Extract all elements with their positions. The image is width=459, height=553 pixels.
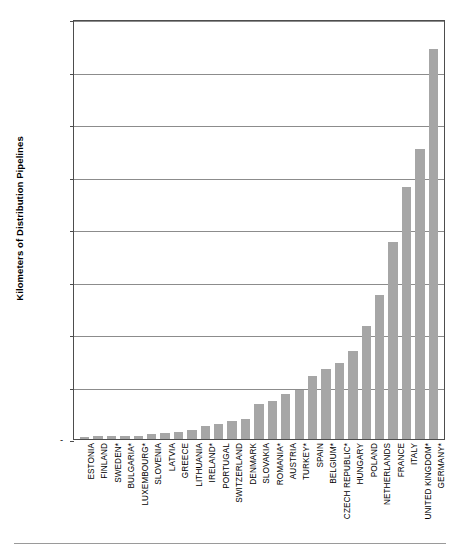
x-axis-label-slot: SLOVAKIA — [252, 441, 265, 541]
bar — [201, 426, 210, 439]
x-axis-label-slot: LUXEMBOURG* — [131, 441, 144, 541]
x-axis-label-slot: HUNGARY — [347, 441, 360, 541]
bar-slot — [239, 21, 252, 439]
bar — [348, 351, 357, 439]
bar — [295, 390, 304, 439]
bar — [375, 295, 384, 439]
x-axis-label-slot: BELGIUM* — [320, 441, 333, 541]
bar-slot — [172, 21, 185, 439]
x-axis-label-slot: ROMANIA* — [266, 441, 279, 541]
bar-slot — [78, 21, 91, 439]
bar-slot — [91, 21, 104, 439]
x-axis-label: GERMANY* — [434, 443, 443, 488]
bar-slot — [400, 21, 413, 439]
x-axis-labels-group: ESTONIAFINLANDSWEDEN*BULGARIA*LUXEMBOURG… — [73, 441, 445, 541]
bar — [134, 436, 143, 439]
bar — [335, 363, 344, 439]
bar — [429, 49, 438, 439]
bar-slot — [252, 21, 265, 439]
x-axis-label-slot: LATVIA — [158, 441, 171, 541]
bar-slot — [293, 21, 306, 439]
x-axis-label-slot: DENMARK — [239, 441, 252, 541]
y-axis-zero-label: - — [60, 434, 63, 445]
bars-group — [74, 21, 444, 439]
x-axis-label-slot: IRELAND* — [198, 441, 211, 541]
bar — [241, 419, 250, 439]
bar — [214, 424, 223, 439]
x-axis-label-slot: ITALY — [401, 441, 414, 541]
x-axis-label-slot: FRANCE — [387, 441, 400, 541]
bar — [160, 433, 169, 439]
bar — [120, 436, 129, 439]
bar — [147, 434, 156, 439]
bar — [107, 436, 116, 439]
bar-slot — [373, 21, 386, 439]
bar-slot — [185, 21, 198, 439]
bar-slot — [333, 21, 346, 439]
bar — [93, 436, 102, 439]
x-axis-label-slot: ESTONIA — [77, 441, 90, 541]
x-axis-label-slot: PORTUGAL — [212, 441, 225, 541]
bar-slot — [105, 21, 118, 439]
bar-slot — [319, 21, 332, 439]
x-axis-label-slot: SPAIN — [306, 441, 319, 541]
x-axis-label-slot: TURKEY* — [293, 441, 306, 541]
bar-slot — [212, 21, 225, 439]
bar — [281, 394, 290, 439]
bar — [388, 242, 397, 439]
x-axis-label-slot: CZECH REPUBLIC* — [333, 441, 346, 541]
bar-slot — [199, 21, 212, 439]
y-axis-title: Kilometers of Distribution Pipelines — [14, 99, 25, 339]
bar-slot — [413, 21, 426, 439]
bar-slot — [145, 21, 158, 439]
bar — [187, 430, 196, 439]
bar — [308, 376, 317, 439]
bar-slot — [158, 21, 171, 439]
x-axis-label-slot: GREECE — [171, 441, 184, 541]
bar — [321, 369, 330, 439]
bar — [254, 404, 263, 439]
bar — [402, 187, 411, 439]
bar-slot — [279, 21, 292, 439]
x-axis-label-slot: SWEDEN* — [104, 441, 117, 541]
bar-slot — [386, 21, 399, 439]
bar — [268, 401, 277, 439]
x-axis-label-slot: GERMANY* — [428, 441, 441, 541]
bar — [80, 437, 89, 439]
x-axis-label-slot: NETHERLANDS — [374, 441, 387, 541]
bar-slot — [118, 21, 131, 439]
bar — [227, 421, 236, 439]
x-axis-label-slot: AUSTRIA — [279, 441, 292, 541]
bar-slot — [132, 21, 145, 439]
bar-slot — [266, 21, 279, 439]
x-axis-label-slot: SLOVENIA — [144, 441, 157, 541]
x-axis-label-slot: POLAND — [360, 441, 373, 541]
bar — [415, 149, 424, 439]
plot-area: 50,000100,000150,000200,000250,000300,00… — [73, 20, 445, 440]
bar-slot — [306, 21, 319, 439]
pipeline-bar-chart: Kilometers of Distribution Pipelines - 5… — [0, 0, 459, 553]
x-axis-label-slot: UNITED KINGDOM* — [414, 441, 427, 541]
x-axis-label-slot: SWITZERLAND — [225, 441, 238, 541]
bar-slot — [427, 21, 440, 439]
x-axis-label-slot: BULGARIA* — [117, 441, 130, 541]
x-axis-label-slot: FINLAND — [90, 441, 103, 541]
bar — [362, 326, 371, 439]
bar — [174, 432, 183, 439]
bar-slot — [360, 21, 373, 439]
footer-divider — [14, 543, 446, 544]
bar-slot — [346, 21, 359, 439]
x-axis-label-slot: LITHUANIA — [185, 441, 198, 541]
bar-slot — [225, 21, 238, 439]
